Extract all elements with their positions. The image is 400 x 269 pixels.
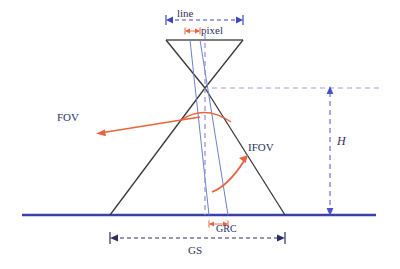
line-dimension-arrow-right bbox=[236, 17, 243, 24]
label-line: line bbox=[177, 8, 194, 19]
pixel-dimension-arrow-left bbox=[185, 29, 190, 34]
label-fov: FOV bbox=[57, 112, 79, 123]
grc-dimension-arrow-left bbox=[209, 222, 214, 227]
fov-leader-line bbox=[100, 117, 200, 133]
ifov-leader-curve bbox=[212, 161, 244, 192]
gs-dimension-arrow-left bbox=[110, 235, 118, 242]
label-gs: GS bbox=[188, 245, 202, 256]
fov-cone-left-edge bbox=[110, 88, 205, 215]
upper-cone-right-edge bbox=[205, 40, 243, 88]
height-dimension-arrow-top bbox=[327, 86, 334, 94]
label-ifov: IFOV bbox=[248, 142, 274, 153]
line-dimension-arrow-left bbox=[166, 17, 173, 24]
label-height: H bbox=[337, 135, 346, 147]
ifov-ray-upper-right bbox=[200, 40, 228, 215]
upper-cone-left-edge bbox=[166, 40, 205, 88]
fov-angle-arc bbox=[181, 112, 231, 122]
ifov-ray-upper-left bbox=[190, 40, 209, 215]
pixel-dimension-arrow-right bbox=[195, 29, 200, 34]
fov-leader-arrowhead bbox=[96, 130, 106, 137]
label-pixel: pixel bbox=[201, 25, 223, 36]
gs-dimension-arrow-right bbox=[277, 235, 285, 242]
label-grc: GRC bbox=[216, 224, 237, 234]
diagram-canvas: line pixel FOV IFOV H GS GRC bbox=[0, 0, 400, 269]
